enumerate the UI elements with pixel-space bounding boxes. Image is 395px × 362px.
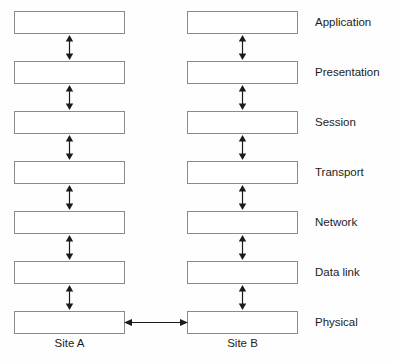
layer-label-data-link: Data link [315, 261, 360, 284]
layer-box-site-b-application [187, 11, 298, 34]
layer-box-site-b-session [187, 111, 298, 134]
vertical-double-arrow-icon [237, 135, 248, 160]
vertical-double-arrow-icon [64, 135, 75, 160]
vertical-double-arrow-icon [64, 235, 75, 260]
vertical-double-arrow-icon [237, 85, 248, 110]
layer-label-application: Application [315, 11, 371, 34]
site-label-b: Site B [187, 337, 298, 349]
horizontal-double-arrow-icon [124, 317, 188, 328]
layer-box-site-b-transport [187, 161, 298, 184]
layer-box-site-a-data-link [14, 261, 125, 284]
layer-box-site-b-network [187, 211, 298, 234]
layer-box-site-a-network [14, 211, 125, 234]
layer-box-site-a-application [14, 11, 125, 34]
layer-box-site-b-presentation [187, 61, 298, 84]
layer-box-site-a-session [14, 111, 125, 134]
layer-box-site-a-physical [14, 311, 125, 334]
vertical-double-arrow-icon [237, 235, 248, 260]
layer-label-session: Session [315, 111, 356, 134]
vertical-double-arrow-icon [237, 35, 248, 60]
layer-label-network: Network [315, 211, 357, 234]
vertical-double-arrow-icon [64, 85, 75, 110]
vertical-double-arrow-icon [64, 35, 75, 60]
site-label-a: Site A [14, 337, 125, 349]
layer-box-site-a-transport [14, 161, 125, 184]
layer-label-physical: Physical [315, 311, 358, 334]
layer-label-transport: Transport [315, 161, 364, 184]
layer-box-site-b-data-link [187, 261, 298, 284]
layer-label-presentation: Presentation [315, 61, 380, 84]
layer-box-site-b-physical [187, 311, 298, 334]
vertical-double-arrow-icon [237, 285, 248, 310]
layer-box-site-a-presentation [14, 61, 125, 84]
vertical-double-arrow-icon [237, 185, 248, 210]
vertical-double-arrow-icon [64, 285, 75, 310]
vertical-double-arrow-icon [64, 185, 75, 210]
osi-layer-diagram: Application Presentation Session Transpo… [0, 0, 395, 362]
